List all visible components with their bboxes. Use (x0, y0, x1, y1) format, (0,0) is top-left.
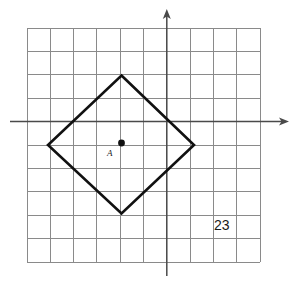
point-A-label: A (107, 149, 113, 158)
figure-background (0, 0, 298, 284)
point-A-marker (118, 140, 125, 147)
geometry-figure (0, 0, 298, 284)
problem-number-label: 23 (214, 218, 230, 232)
